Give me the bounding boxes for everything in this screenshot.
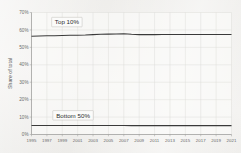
x-tick-label: 2011 xyxy=(150,138,160,143)
x-tick-label: 2009 xyxy=(134,138,144,143)
x-tick-label: 1995 xyxy=(27,138,37,143)
y-tick-label: 70% xyxy=(19,10,28,15)
chart-figure: 0%10%20%30%40%50%60%70% 1995199719992001… xyxy=(0,0,241,153)
y-axis-tick-labels: 0%10%20%30%40%50%60%70% xyxy=(19,10,28,137)
x-tick-label: 2015 xyxy=(180,138,190,143)
y-axis-label: Share of total xyxy=(7,58,13,89)
y-tick-label: 30% xyxy=(19,80,28,85)
x-tick-label: 2019 xyxy=(211,138,221,143)
series-annotation-label: Top 10% xyxy=(55,18,80,25)
line-chart: 0%10%20%30%40%50%60%70% 1995199719992001… xyxy=(0,0,241,153)
y-axis-title: Share of total xyxy=(7,58,13,89)
y-tick-label: 60% xyxy=(19,28,28,33)
y-tick-label: 40% xyxy=(19,62,28,67)
x-tick-label: 2017 xyxy=(196,138,206,143)
x-tick-label: 1999 xyxy=(57,138,67,143)
x-tick-label: 2001 xyxy=(73,138,83,143)
x-tick-label: 2021 xyxy=(227,138,237,143)
x-tick-label: 2005 xyxy=(104,138,114,143)
y-tick-label: 10% xyxy=(19,115,28,120)
series-annotation-label: Bottom 50% xyxy=(56,112,90,119)
x-axis-tick-labels: 1995199719992001200320052007200920112013… xyxy=(27,138,237,143)
y-tick-label: 20% xyxy=(19,97,28,102)
y-tick-label: 50% xyxy=(19,45,28,50)
x-tick-label: 2013 xyxy=(165,138,175,143)
y-tick-label: 0% xyxy=(22,132,29,137)
x-tick-label: 2007 xyxy=(119,138,129,143)
x-tick-label: 2003 xyxy=(88,138,98,143)
x-tick-label: 1997 xyxy=(42,138,52,143)
